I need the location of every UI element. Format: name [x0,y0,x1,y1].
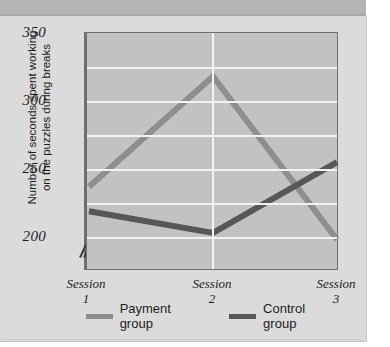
legend-item-control-group: Control group [229,301,338,331]
chart-legend: Payment group Control group [86,306,338,326]
legend-swatch-payment-group [86,314,113,319]
y-tick-label-200: 200 [0,228,46,245]
plot-area [86,32,338,270]
x-tick-label-session-3-word: Session [291,276,381,291]
y-tick-label-250: 250 [0,160,46,177]
y-tick-label-350: 350 [0,24,46,41]
x-tick-label-session-2-word: Session [167,276,257,291]
x-tick-label-session-1-word: Session [41,276,131,291]
panel-bottom-rule [2,339,364,340]
legend-swatch-control-group [229,314,256,319]
legend-item-payment-group: Payment group [86,301,203,331]
gridline-session-2 [212,33,214,269]
figure-page: Number of seconds spent working on the p… [0,0,390,347]
y-axis-title-line-1: Number of seconds spent working [26,18,40,218]
legend-label-payment-group: Payment group [120,301,204,331]
legend-label-control-group: Control group [263,301,338,331]
y-axis-title: Number of seconds spent working on the p… [26,18,53,218]
y-axis-title-line-2: on the puzzles during breaks [39,18,53,218]
y-tick-label-300: 300 [0,92,46,109]
